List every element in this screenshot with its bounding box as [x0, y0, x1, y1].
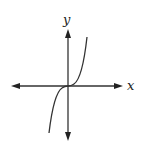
- y-axis-label: y: [62, 12, 71, 27]
- y-axis: [65, 29, 71, 141]
- x-axis-label: x: [127, 78, 135, 93]
- y-axis-bottom-arrow-icon: [65, 132, 71, 141]
- y-axis-top-arrow-icon: [65, 29, 71, 38]
- x-axis-left-arrow-icon: [11, 83, 20, 89]
- graph-figure: y x: [0, 0, 144, 142]
- x-axis-right-arrow-icon: [114, 83, 123, 89]
